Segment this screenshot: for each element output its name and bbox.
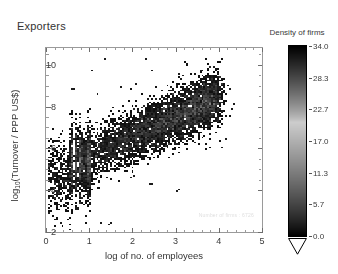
axis-tick [193,230,194,233]
x-tick-label: 2 [130,236,135,246]
axis-tick [259,169,261,170]
colorbar-title: Density of firms [269,28,324,37]
y-tick-label: 8 [42,102,56,112]
axis-tick [106,48,107,50]
firm-count-annotation: Number of firms : 6726 [199,212,254,218]
axis-tick [132,228,133,233]
axis-tick [63,230,64,233]
colorbar-tick [309,236,312,237]
axis-tick [46,96,49,97]
colorbar-extend-min-arrow [288,238,307,255]
axis-tick [259,127,261,128]
axis-tick [115,48,116,50]
axis-tick [81,230,82,233]
axis-tick [158,48,159,50]
axis-tick [227,48,228,50]
axis-tick [141,48,142,50]
axis-tick [150,48,151,50]
colorbar-tick-label: 28.3 [313,73,329,82]
axis-tick [81,48,82,50]
colorbar [288,45,307,237]
axis-tick [184,230,185,233]
y-axis-title-subscript: 10 [14,181,21,188]
y-axis-title-base: log [9,189,20,202]
axis-tick [176,48,177,52]
axis-tick [158,230,159,233]
axis-tick [46,180,49,181]
axis-tick [46,138,49,139]
y-axis-title-rest: (Turnover / PPP US$) [9,90,20,182]
axis-tick [258,107,262,108]
axis-tick [193,48,194,50]
colorbar-gradient-canvas [289,46,306,236]
plot-area: Number of firms : 6726 [45,47,263,233]
axis-tick [46,48,47,52]
axis-tick [236,230,237,233]
colorbar-tick [309,109,312,110]
x-tick-label: 4 [216,236,221,246]
axis-tick [259,96,261,97]
axis-tick [259,138,261,139]
axis-tick [46,117,49,118]
axis-tick [210,230,211,233]
axis-tick [259,117,261,118]
axis-tick [46,169,49,170]
axis-tick [227,230,228,233]
axis-tick [253,48,254,50]
axis-tick [72,230,73,233]
x-tick-label: 3 [173,236,178,246]
axis-tick [150,230,151,233]
axis-tick [167,48,168,50]
axis-tick [245,230,246,233]
colorbar-tick-label: 11.3 [313,168,328,177]
axis-tick [46,159,49,160]
axis-tick [262,228,263,233]
y-axis-title: log10(Turnover / PPP US$) [9,71,20,221]
axis-tick [258,148,262,149]
colorbar-tick-label: 22.7 [313,105,329,114]
axis-tick [258,190,262,191]
axis-tick [167,230,168,233]
colorbar-tick [309,173,312,174]
axis-tick [219,48,220,52]
axis-tick [98,230,99,233]
axis-tick [184,48,185,50]
density-heatmap-canvas [46,48,262,232]
axis-tick [259,54,261,55]
y-tick-label: 10 [42,60,56,70]
colorbar-tick-label: 34.0 [313,42,329,51]
axis-tick [202,230,203,233]
axis-tick [258,232,262,233]
axis-tick [258,65,262,66]
colorbar-tick [309,141,312,142]
axis-tick [210,48,211,50]
axis-tick [46,75,49,76]
axis-tick [132,48,133,52]
axis-tick [124,230,125,233]
axis-tick [46,86,49,87]
colorbar-tick [309,46,312,47]
axis-tick [176,228,177,233]
axis-tick [219,228,220,233]
axis-tick [202,48,203,50]
y-tick-label: 2 [42,227,56,237]
axis-tick [98,48,99,50]
axis-tick [89,228,90,233]
x-tick-label: 0 [43,236,48,246]
axis-tick [253,230,254,233]
colorbar-tick-label: 17.0 [313,137,329,146]
axis-tick [259,180,261,181]
x-tick-label: 1 [87,236,92,246]
page-title: Exporters [17,20,66,32]
axis-tick [259,86,261,87]
axis-tick [55,48,56,50]
axis-tick [236,48,237,50]
axis-tick [89,48,90,52]
x-tick-label: 5 [259,236,264,246]
x-axis-title: log of no. of employees [105,250,203,261]
colorbar-tick [309,204,312,205]
colorbar-tick-label: 5.7 [313,200,324,209]
axis-tick [259,159,261,160]
density-plot-figure: Exporters Number of firms : 6726 012345 … [0,0,338,274]
axis-tick [46,54,49,55]
